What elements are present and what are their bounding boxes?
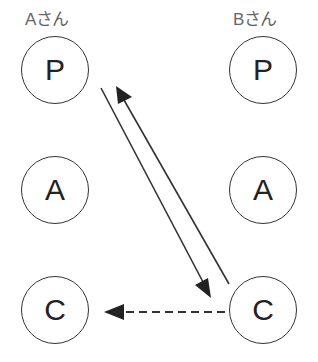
arrowhead-left-icon — [104, 304, 124, 320]
arrows-layer — [0, 0, 318, 362]
arrowhead-down-icon — [195, 278, 211, 298]
edge-bc-to-ap — [124, 100, 229, 284]
edge-ap-to-bc — [101, 88, 203, 282]
